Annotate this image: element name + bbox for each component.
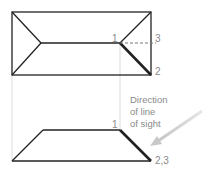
label-front-23: 2,3 xyxy=(155,155,169,166)
label-top-1: 1 xyxy=(112,33,118,44)
label-top-2: 2 xyxy=(155,66,161,77)
label-front-1: 1 xyxy=(112,119,118,130)
projection-lines xyxy=(12,43,120,161)
annotation-line-1: Direction xyxy=(130,94,168,105)
front-view xyxy=(12,130,151,161)
annotation-line-3: of sight xyxy=(130,118,161,129)
label-top-3: 3 xyxy=(155,33,161,44)
projection-diagram: 1 3 2 1 2,3 Direction of line of sight xyxy=(0,0,211,176)
annotation-line-2: of line xyxy=(130,106,155,117)
diagram-svg: 1 3 2 1 2,3 Direction of line of sight xyxy=(0,0,211,176)
